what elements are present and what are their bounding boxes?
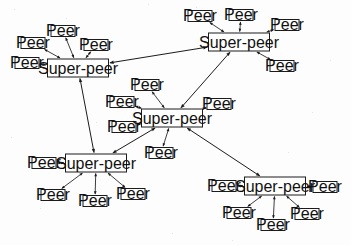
peer-node[interactable]: Peer [295, 208, 320, 220]
peer-node[interactable]: Super-peer [65, 154, 127, 173]
node-layer: PeerPeerPeerPeerPeerPeerPeerPeerPeerPeer… [0, 0, 351, 245]
peer-label: Super-peer [199, 33, 279, 51]
peer-label: Super-peer [235, 177, 315, 195]
peer-label: Super-peer [132, 109, 212, 127]
peer-label: Peer [116, 185, 150, 203]
peer-node[interactable]: Peer [121, 188, 146, 200]
peer-label: Peer [256, 216, 290, 234]
peer-node[interactable]: Super-peer [141, 109, 203, 128]
peer-node[interactable]: Peer [135, 79, 160, 91]
peer-node[interactable]: Peer [275, 19, 300, 31]
peer-label: Super-peer [56, 154, 136, 172]
peer-label: Peer [130, 76, 164, 94]
peer-label: Peer [270, 16, 304, 34]
network-diagram-canvas: PeerPeerPeerPeerPeerPeerPeerPeerPeerPeer… [0, 0, 351, 245]
peer-label: Peer [224, 6, 258, 24]
peer-label: Peer [36, 186, 70, 204]
peer-node[interactable]: Peer [32, 157, 57, 169]
peer-label: Peer [290, 205, 324, 223]
peer-node[interactable]: Peer [41, 189, 66, 201]
peer-label: Super-peer [38, 59, 118, 77]
peer-label: Peer [183, 7, 217, 25]
peer-node[interactable]: Peer [84, 39, 109, 51]
peer-node[interactable]: Super-peer [47, 59, 109, 78]
peer-node[interactable]: Peer [227, 207, 252, 219]
peer-node[interactable]: Super-peer [208, 33, 270, 52]
peer-node[interactable]: Peer [51, 25, 76, 37]
peer-node[interactable]: Peer [110, 96, 135, 108]
peer-label: Peer [144, 144, 178, 162]
peer-node[interactable]: Peer [188, 10, 213, 22]
peer-node[interactable]: Super-peer [244, 177, 306, 196]
peer-label: Peer [265, 57, 299, 75]
peer-label: Peer [222, 204, 256, 222]
peer-label: Peer [79, 36, 113, 54]
peer-node[interactable]: Peer [212, 180, 237, 192]
peer-label: Peer [78, 192, 112, 210]
peer-node[interactable]: Peer [15, 57, 40, 69]
peer-node[interactable]: Peer [313, 181, 338, 193]
peer-label: Peer [46, 22, 80, 40]
peer-node[interactable]: Peer [229, 9, 254, 21]
peer-node[interactable]: Peer [270, 60, 295, 72]
peer-node[interactable]: Peer [261, 219, 286, 231]
peer-node[interactable]: Peer [21, 37, 46, 49]
peer-node[interactable]: Peer [149, 147, 174, 159]
peer-label: Peer [16, 34, 50, 52]
peer-node[interactable]: Peer [83, 195, 108, 207]
